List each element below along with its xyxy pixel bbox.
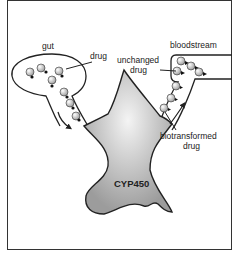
- drug-leader-line: [66, 62, 92, 69]
- unchanged-label-line2: drug: [130, 65, 147, 75]
- biotransformed-label-line1: biotransformed: [160, 131, 217, 141]
- unchanged-label-line1: unchanged: [117, 55, 159, 65]
- drug-label: drug: [90, 51, 107, 61]
- cyp450-enzyme: [84, 70, 172, 214]
- biotransformed-label-line2: drug: [183, 141, 200, 151]
- bloodstream-label: bloodstream: [170, 40, 217, 50]
- cyp450-diagram: CYP450: [0, 0, 239, 267]
- enzyme-label: CYP450: [114, 178, 149, 189]
- gut-label: gut: [42, 41, 54, 51]
